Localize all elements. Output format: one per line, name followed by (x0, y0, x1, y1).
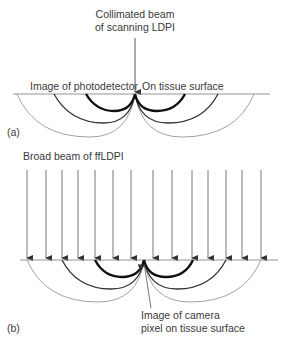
thin-arc-right-b (144, 260, 261, 302)
thin-arc-right-a (135, 94, 254, 137)
panel-b: Broad beam of ffLDPI Image of camera pix… (7, 150, 278, 334)
thick-arc-left-b (95, 260, 144, 277)
collimated-beam-title-line2: of scanning LDPI (95, 21, 175, 33)
thin-arc-left-a (17, 94, 135, 137)
ldpi-diagram: Collimated beam of scanning LDPI Image o… (0, 0, 291, 351)
tissue-surface-caption: On tissue surface (142, 80, 224, 92)
thick-arc-right-b (144, 260, 193, 277)
panel-a-label: (a) (7, 126, 20, 138)
thick-arc-left-a (86, 94, 135, 111)
photodetector-image-caption: Image of photodetector (30, 80, 138, 92)
camera-pixel-caption-line2: pixel on tissue surface (141, 322, 245, 334)
broad-beam-title: Broad beam of ffLDPI (23, 150, 124, 162)
camera-pixel-caption-line1: Image of camera (141, 309, 220, 321)
panel-a: Collimated beam of scanning LDPI Image o… (7, 8, 270, 138)
broad-beam-arrows (27, 170, 261, 258)
thick-arc-right-a (135, 94, 185, 111)
collimated-beam-title-line1: Collimated beam (96, 8, 175, 20)
thin-arc-left-b (27, 260, 144, 302)
panel-b-label: (b) (7, 322, 20, 334)
